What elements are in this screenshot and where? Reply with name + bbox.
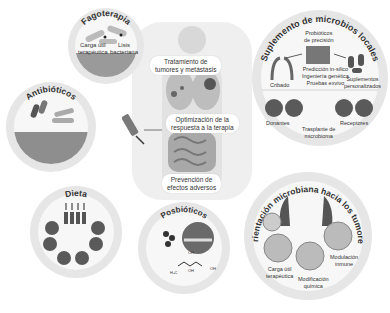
label-line: Prevención de bbox=[167, 176, 216, 184]
label-lisis: Lisis bacteriana bbox=[110, 42, 138, 56]
panel-orientacion: Orientación microbiana hacia los tumores… bbox=[244, 172, 372, 300]
panel-posbioticos: Posbióticos OH H₃C OH OH bbox=[138, 202, 230, 294]
label-line: microbioma bbox=[302, 133, 335, 140]
burger-icon bbox=[43, 237, 57, 251]
label-line: terapéutica bbox=[78, 49, 108, 56]
label-modulacion: Modulación inmune bbox=[330, 254, 358, 268]
panel-title-arc: Antibióticos bbox=[6, 82, 96, 172]
ice-cream-icon bbox=[57, 251, 71, 265]
label-line: Optimización de la bbox=[171, 116, 234, 124]
label-line: Modulación bbox=[330, 254, 358, 261]
donor-icon bbox=[265, 99, 283, 117]
label-line: Carga útil bbox=[266, 266, 293, 273]
label-line: química bbox=[298, 283, 329, 290]
svg-text:H₃C: H₃C bbox=[170, 270, 178, 275]
intestine-icon bbox=[335, 99, 353, 117]
label-line: Ingeniería genética bbox=[302, 73, 349, 80]
panel-title: Fagoterapia bbox=[79, 8, 133, 27]
label-line: tumores y metástasis bbox=[155, 66, 216, 74]
label-line: terapéutica bbox=[266, 273, 293, 280]
molecule-diagram: OH H₃C OH OH bbox=[138, 202, 230, 294]
label-line: personalizados bbox=[344, 83, 381, 90]
label-probioticos: Probióticos de precisión bbox=[304, 30, 334, 44]
label-line: Probióticos bbox=[304, 30, 334, 37]
label-receptores: Receptores bbox=[340, 120, 368, 127]
label-line: de precisión bbox=[304, 37, 334, 44]
label-line: Pruebas exvivo bbox=[302, 80, 349, 87]
label-line: Lisis bbox=[110, 42, 138, 49]
label-line: Predicción in-silico bbox=[302, 66, 349, 73]
label-therapy-optimization: Optimización de la respuesta a la terapi… bbox=[166, 114, 239, 133]
svg-text:OH: OH bbox=[188, 268, 194, 273]
lung-icon bbox=[322, 196, 332, 226]
panel-dieta: Dieta bbox=[30, 186, 122, 278]
label-line: efectos adversos bbox=[167, 184, 216, 192]
syringe-icon bbox=[122, 108, 162, 148]
svg-text:OH: OH bbox=[210, 266, 216, 271]
label-suplementos: Suplementos personalizados bbox=[344, 76, 381, 90]
label-modificacion: Modificación química bbox=[298, 276, 329, 290]
label-line: inmune bbox=[330, 261, 358, 268]
label-line: Modificación bbox=[298, 276, 329, 283]
label-tumor-treatment: Tratamiento de tumores y metástasis bbox=[150, 56, 221, 75]
fish-icon bbox=[75, 251, 89, 265]
label-trasplante: Trasplante de microbioma bbox=[302, 126, 335, 140]
panel-antibioticos: Antibióticos bbox=[6, 82, 96, 172]
cell-icon bbox=[182, 222, 214, 254]
apple-icon bbox=[45, 221, 59, 235]
uterus-icon bbox=[285, 99, 303, 117]
label-carga-util: Carga útil terapéutica bbox=[266, 266, 293, 280]
label-line: Trasplante de bbox=[302, 126, 335, 133]
chicken-leg-icon bbox=[89, 237, 103, 251]
label-line: bacteriana bbox=[110, 49, 138, 56]
uterus-icon bbox=[355, 99, 373, 117]
panel-suplemento: Suplemento de microbios locales Probióti… bbox=[252, 10, 388, 146]
label-donantes: Donantes bbox=[266, 120, 290, 127]
label-line: Carga útil bbox=[78, 42, 108, 49]
label-cribado: Cribado bbox=[270, 82, 289, 89]
label-prediccion: Predicción in-silico Ingeniería genética… bbox=[302, 66, 349, 87]
panel-fagoterapia: Fagoterapia Carga útil terapéutica Lisis… bbox=[68, 8, 144, 84]
label-line: Suplementos bbox=[344, 76, 381, 83]
microarray-icon bbox=[306, 46, 330, 64]
body-outline-icon bbox=[272, 58, 292, 80]
label-adverse-effects: Prevención de efectos adversos bbox=[162, 174, 221, 193]
label-line: respuesta a la terapia bbox=[171, 124, 234, 132]
svg-text:Antibióticos: Antibióticos bbox=[24, 84, 79, 102]
svg-text:OH: OH bbox=[188, 250, 194, 255]
panel-title: Antibióticos bbox=[24, 84, 79, 102]
label-line: Tratamiento de bbox=[155, 58, 216, 66]
diet-icons bbox=[30, 186, 122, 278]
label-carga-util: Carga útil terapéutica bbox=[78, 42, 108, 56]
svg-text:Fagoterapia: Fagoterapia bbox=[79, 8, 133, 27]
bread-icon bbox=[91, 221, 105, 235]
